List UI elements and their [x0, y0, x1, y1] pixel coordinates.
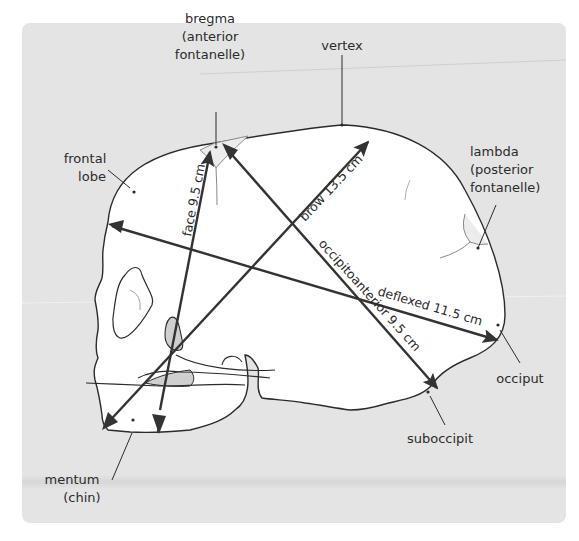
fetal-skull-diagram: face 9.5 cm brow 13.5 cm occipitoanterio… — [0, 0, 579, 541]
artifact-line — [200, 60, 566, 74]
frontal-label-line1: frontal — [64, 151, 107, 166]
occiput-label: occiput — [496, 371, 543, 386]
bregma-point — [214, 145, 217, 148]
mentum-label-line1: mentum — [45, 472, 100, 487]
bregma-label-line3: fontanelle) — [175, 47, 245, 62]
suboccipit-point — [426, 390, 429, 393]
vertex-label: vertex — [321, 38, 363, 53]
lambda-label-line3: fontanelle) — [470, 180, 540, 195]
suboccipit-leader — [430, 396, 445, 425]
mentum-label-line2: (chin) — [63, 490, 100, 505]
frontal-point — [132, 190, 135, 193]
bregma-label-line2: (anterior — [182, 29, 239, 44]
mentum-point — [131, 418, 134, 421]
vertex-point — [340, 123, 343, 126]
suboccipit-label: suboccipit — [407, 431, 473, 446]
lambda-point — [476, 246, 479, 249]
occiput-leader — [500, 330, 520, 363]
bregma-label-line1: bregma — [185, 11, 235, 26]
occiput-point — [496, 323, 499, 326]
frontal-label-line2: lobe — [78, 169, 106, 184]
lambda-label-line1: lambda — [470, 144, 519, 159]
mentum-leader — [112, 433, 132, 480]
lambda-label-line2: (posterior — [470, 162, 534, 177]
